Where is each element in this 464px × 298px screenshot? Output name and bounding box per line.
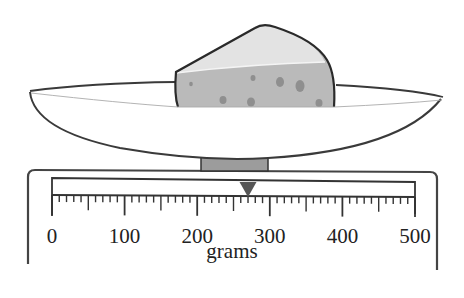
tick-label: 0 — [47, 224, 58, 248]
tick-label: 400 — [327, 224, 359, 248]
tick-label: 500 — [399, 224, 431, 248]
tick-label: 300 — [254, 224, 286, 248]
pointer-indicator — [240, 182, 257, 197]
tick-label: 100 — [109, 224, 141, 248]
scale-display: 0100200300400500 grams — [47, 178, 431, 263]
scale-ticks — [52, 195, 415, 217]
scale-diagram: 0100200300400500 grams — [0, 0, 464, 298]
unit-label: grams — [206, 239, 257, 263]
